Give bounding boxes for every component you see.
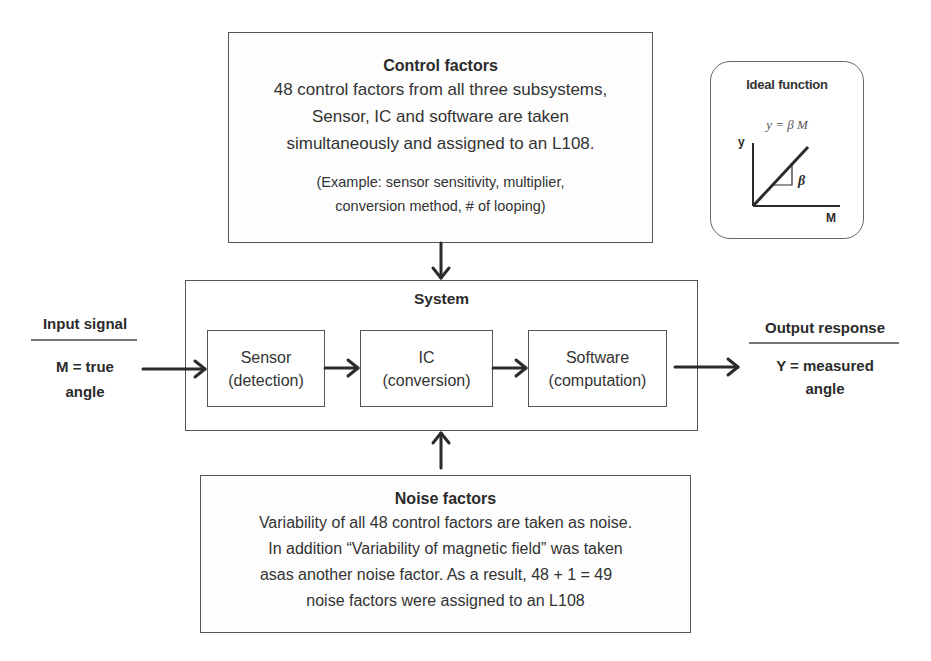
software-subsystem-box: Software (computation): [528, 330, 667, 407]
noise-factors-text-line: Variability of all 48 control factors ar…: [200, 514, 691, 532]
output-response-value: Y = measured: [745, 357, 905, 374]
noise-factors-text-line: In addition “Variability of magnetic fie…: [200, 540, 691, 558]
ideal-function-x-label: M: [826, 211, 836, 225]
control-factors-title: Control factors: [228, 57, 653, 75]
software-name: Software: [566, 346, 629, 369]
control-factors-text-line: 48 control factors from all three subsys…: [228, 80, 653, 100]
sensor-name: Sensor: [241, 346, 292, 369]
ic-subsystem-box: IC (conversion): [360, 330, 493, 407]
noise-factors-text-line: noise factors were assigned to an L108: [200, 592, 691, 610]
ic-name: IC: [419, 346, 435, 369]
input-signal-value: M = true: [20, 358, 150, 375]
output-response-title: Output response: [745, 319, 905, 336]
noise-factors-title: Noise factors: [200, 490, 691, 508]
arrow-up-icon: [433, 433, 449, 468]
control-factors-text-line: simultaneously and assigned to an L108.: [228, 134, 653, 154]
output-response-underline: [749, 342, 899, 344]
software-role: (computation): [549, 369, 647, 392]
control-factors-example-line: (Example: sensor sensitivity, multiplier…: [228, 174, 653, 190]
sensor-role: (detection): [228, 369, 304, 392]
output-response-value: angle: [745, 380, 905, 397]
system-title: System: [185, 290, 698, 308]
sensor-subsystem-box: Sensor (detection): [207, 330, 325, 407]
ic-role: (conversion): [382, 369, 470, 392]
arrow-down-icon: [433, 243, 449, 278]
ideal-function-slope-label: β: [798, 173, 805, 189]
input-signal-value: angle: [20, 383, 150, 400]
control-factors-example-line: conversion method, # of looping): [228, 198, 653, 214]
control-factors-text-line: Sensor, IC and software are taken: [228, 107, 653, 127]
ideal-function-title: Ideal function: [710, 77, 864, 92]
input-signal-underline: [31, 339, 137, 341]
input-signal-title: Input signal: [20, 315, 150, 332]
noise-factors-text-line: asas another noise factor. As a result, …: [196, 566, 676, 584]
ideal-function-y-label: y: [738, 135, 745, 149]
ideal-function-equation: y = β M: [710, 117, 864, 133]
